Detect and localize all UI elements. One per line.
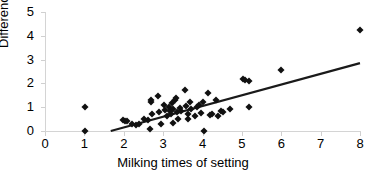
y-tick-label: 1 (20, 100, 34, 113)
data-point (245, 77, 252, 84)
data-point (82, 127, 89, 134)
data-point (145, 117, 152, 124)
y-tick (41, 12, 45, 13)
data-point (204, 89, 211, 96)
x-tick-label: 1 (74, 137, 94, 151)
data-point (201, 127, 208, 134)
x-axis-title: Milking times of setting (0, 155, 366, 170)
data-point (356, 26, 363, 33)
data-point (154, 93, 161, 100)
data-point (182, 86, 189, 93)
data-point (157, 120, 164, 127)
y-tick-label: 4 (20, 29, 34, 42)
y-tick-label: 2 (20, 76, 34, 89)
y-tick-label: 3 (20, 53, 34, 66)
y-axis-title: Difference (0, 0, 11, 48)
data-point (227, 106, 234, 113)
x-tick-label: 3 (153, 137, 173, 151)
y-tick (41, 36, 45, 37)
x-tick-label: 6 (271, 137, 291, 151)
data-point (212, 97, 219, 104)
y-tick (41, 60, 45, 61)
x-tick-label: 8 (350, 137, 366, 151)
data-point (175, 115, 182, 122)
y-axis-line (45, 12, 46, 132)
data-point (82, 104, 89, 111)
x-tick-label: 0 (35, 137, 55, 151)
y-tick (41, 107, 45, 108)
x-tick-label: 7 (311, 137, 331, 151)
data-point (278, 67, 285, 74)
x-tick-label: 2 (114, 137, 134, 151)
data-point (191, 113, 198, 120)
x-tick-label: 4 (193, 137, 213, 151)
y-tick-label: 0 (20, 124, 34, 137)
x-tick-label: 5 (232, 137, 252, 151)
y-tick (41, 83, 45, 84)
y-tick-label: 5 (20, 5, 34, 18)
data-point (245, 104, 252, 111)
scatter-chart: 012345 012345678 Difference Milking time… (0, 0, 366, 178)
